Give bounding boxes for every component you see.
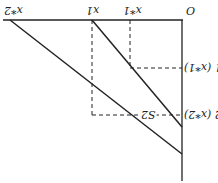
label-p1: p1 (x*1)	[184, 62, 218, 73]
label-origin: O	[186, 6, 195, 17]
label-p2: p2 (x*2)	[184, 109, 218, 120]
label-s2: S2	[140, 109, 157, 120]
label-x1-star: x*1	[123, 5, 142, 16]
diagram-canvas	[0, 0, 218, 183]
demand-line-1	[92, 20, 182, 127]
label-x2-star: x*2	[4, 5, 23, 16]
label-x1: x1	[86, 5, 99, 16]
demand-line-2	[10, 20, 182, 154]
